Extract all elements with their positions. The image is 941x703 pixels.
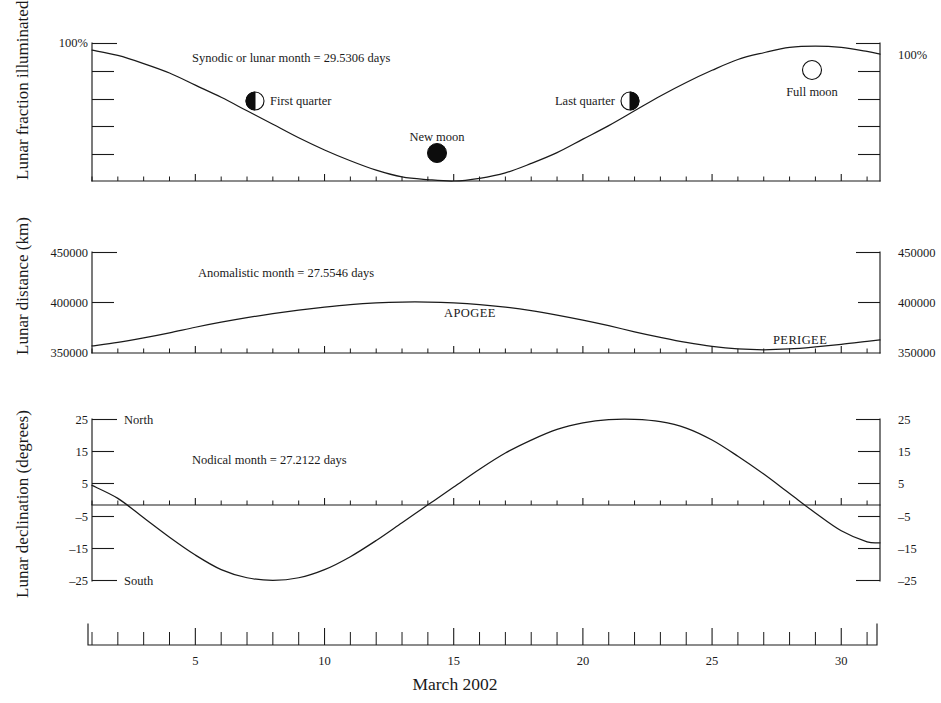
declination-y-axis-label: Lunar declination (degrees) [13, 410, 32, 598]
declination-right-ticks [856, 420, 880, 581]
illumination-left-ticks [92, 44, 117, 155]
x-axis-title: March 2002 [412, 674, 497, 694]
x-axis-ruler: 51015202530 March 2002 [88, 624, 877, 694]
panel-illumination: Lunar fraction illuminated 100% 100% [13, 0, 927, 181]
new-moon-label: New moon [409, 130, 465, 144]
full-moon-label: Full moon [786, 85, 838, 99]
illumination-x-ticks [92, 174, 867, 181]
distance-right-label-400000: 400000 [898, 296, 936, 310]
declination-tick-label-25: 25 [76, 413, 89, 427]
illumination-curve [92, 46, 880, 181]
full-moon-icon [803, 61, 822, 80]
distance-tick-label-450000: 450000 [51, 246, 89, 260]
x-axis-bracket [88, 624, 877, 645]
declination-tick-label-minus25: –25 [68, 574, 88, 588]
north-label: North [124, 413, 154, 427]
distance-left-ticks [92, 253, 117, 303]
x-tick-label: 20 [577, 654, 590, 668]
panel-distance: Lunar distance (km) 450000 400000 350000… [13, 217, 936, 360]
last-quarter-moon-icon [621, 92, 639, 110]
declination-left-ticks [92, 420, 117, 581]
panel-declination: Lunar declination (degrees) 25 15 5 –5 –… [13, 410, 917, 598]
declination-x-ticks [92, 498, 867, 505]
x-tick-label: 5 [192, 654, 198, 668]
x-tick-label: 25 [706, 654, 719, 668]
perigee-label: PERIGEE [773, 333, 827, 347]
distance-right-label-450000: 450000 [898, 246, 936, 260]
distance-annotation: Anomalistic month = 27.5546 days [198, 266, 374, 280]
declination-right-label-minus25: –25 [897, 574, 917, 588]
declination-tick-label-minus5: –5 [75, 510, 89, 524]
lunar-chart-svg: Lunar fraction illuminated 100% 100% [0, 0, 941, 703]
x-axis-tick-labels: 51015202530 [192, 654, 847, 668]
declination-right-label-minus5: –5 [897, 510, 911, 524]
illumination-right-ticks [856, 44, 880, 155]
illumination-right-tick-label: 100% [898, 48, 927, 62]
declination-annotation: Nodical month = 27.2122 days [192, 453, 347, 467]
last-quarter-label: Last quarter [555, 94, 616, 108]
first-quarter-label: First quarter [270, 94, 332, 108]
declination-right-label-25: 25 [898, 413, 911, 427]
illumination-annotation: Synodic or lunar month = 29.5306 days [192, 51, 390, 65]
distance-right-label-350000: 350000 [898, 346, 936, 360]
distance-right-ticks [856, 253, 880, 303]
declination-right-label-minus15: –15 [897, 542, 917, 556]
distance-tick-label-350000: 350000 [51, 346, 89, 360]
x-tick-label: 30 [835, 654, 848, 668]
declination-curve [92, 419, 880, 580]
apogee-label: APOGEE [444, 306, 496, 320]
new-moon-icon [428, 144, 447, 163]
declination-right-label-5: 5 [898, 477, 904, 491]
first-quarter-moon-icon [246, 92, 264, 110]
distance-tick-label-400000: 400000 [51, 296, 89, 310]
south-label: South [124, 574, 154, 588]
illumination-y-axis-label: Lunar fraction illuminated [13, 0, 32, 180]
distance-y-axis-label: Lunar distance (km) [13, 217, 32, 355]
declination-tick-label-minus15: –15 [68, 542, 88, 556]
x-tick-label: 10 [318, 654, 331, 668]
declination-tick-label-5: 5 [82, 477, 88, 491]
declination-tick-label-15: 15 [76, 445, 89, 459]
illumination-left-tick-label: 100% [59, 36, 88, 50]
lunar-data-figure: Lunar fraction illuminated 100% 100% [0, 0, 941, 703]
x-tick-label: 15 [447, 654, 460, 668]
x-axis-tick-marks [92, 628, 867, 645]
declination-right-label-15: 15 [898, 445, 911, 459]
